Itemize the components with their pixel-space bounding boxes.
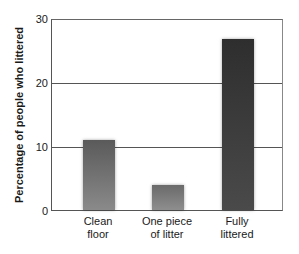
x-label-line: One piece (132, 215, 202, 228)
x-label-line: Clean (63, 215, 133, 228)
y-tick-10: 10 (18, 141, 48, 153)
x-label-line: of litter (132, 228, 202, 241)
x-label-one-piece: One piece of litter (132, 215, 202, 241)
y-tick-0: 0 (18, 205, 48, 217)
x-label-line: Fully (202, 215, 272, 228)
x-label-line: floor (63, 228, 133, 241)
bar-clean-floor (83, 140, 115, 210)
bar-chart: Percentage of people who littered 0 10 2… (0, 0, 299, 254)
y-tick-30: 30 (18, 13, 48, 25)
bar-one-piece-of-litter (152, 185, 184, 210)
y-tick-20: 20 (18, 77, 48, 89)
x-label-fully-littered: Fully littered (202, 215, 272, 241)
bar-fully-littered (222, 39, 254, 210)
x-label-clean-floor: Clean floor (63, 215, 133, 241)
plot-area (51, 19, 283, 211)
y-axis-label: Percentage of people who littered (13, 25, 27, 205)
x-label-line: littered (202, 228, 272, 241)
